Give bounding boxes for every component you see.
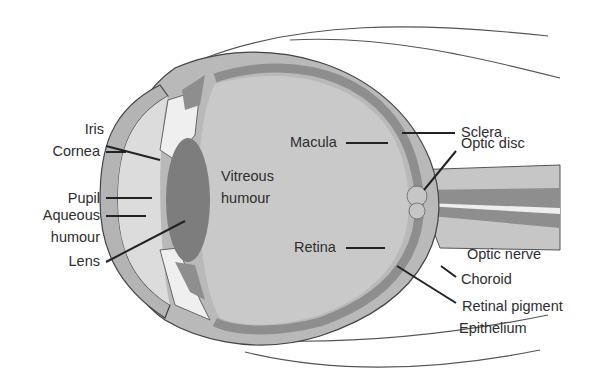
label-vitreous-2: humour: [221, 190, 270, 207]
label-optic-disc: Optic disc: [461, 135, 525, 152]
label-cornea: Cornea: [30, 143, 100, 160]
label-pupil: Pupil: [40, 190, 100, 207]
label-optic-nerve: Optic nerve: [467, 246, 541, 263]
label-iris: Iris: [70, 121, 104, 138]
label-aqueous-1: Aqueous: [20, 207, 100, 224]
label-lens: Lens: [40, 253, 100, 270]
label-aqueous-2: humour: [20, 229, 100, 246]
label-retinal-pigment: Retinal pigment: [462, 298, 563, 315]
label-choroid: Choroid: [461, 271, 512, 288]
label-macula: Macula: [290, 134, 337, 151]
lens-shape: [166, 138, 210, 262]
label-retina: Retina: [294, 239, 336, 256]
label-vitreous-1: Vitreous: [221, 168, 274, 185]
label-epithelium: Epithelium: [459, 320, 527, 337]
